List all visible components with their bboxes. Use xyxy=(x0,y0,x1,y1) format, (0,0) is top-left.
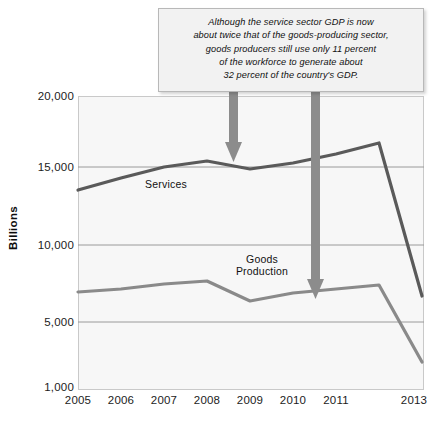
series-label-goods: Goods Production xyxy=(222,253,302,278)
plot-canvas xyxy=(78,96,424,390)
x-tick-2013: 2013 xyxy=(387,394,441,406)
y-axis-title: Billions xyxy=(7,193,19,263)
x-tick-2011: 2011 xyxy=(309,394,363,406)
callout-annotation: Although the service sector GDP is now a… xyxy=(158,8,424,92)
y-tick-5000: 5,000 xyxy=(4,316,74,328)
gdp-line-chart: 20,000 15,000 10,000 5,000 1,000 Billion… xyxy=(0,0,442,424)
y-tick-20000: 20,000 xyxy=(4,90,74,102)
series-label-services: Services xyxy=(126,178,206,190)
y-tick-1000: 1,000 xyxy=(4,381,74,393)
y-tick-15000: 15,000 xyxy=(4,161,74,173)
